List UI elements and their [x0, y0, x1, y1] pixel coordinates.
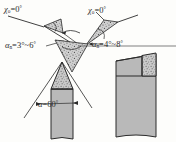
label-alpha-n-right-value: 4°~8 — [104, 39, 121, 49]
shank-tool-right — [116, 53, 156, 137]
label-alpha-n-left: αn=3°~6° — [5, 41, 36, 50]
label-alpha-n-left-unit: ° — [33, 41, 35, 47]
label-chi-right: χo=0° — [88, 6, 106, 15]
label-chi-left-unit: ° — [19, 5, 21, 11]
pointed-tool-shank — [51, 89, 73, 139]
leader-line-chi-right — [118, 15, 138, 22]
label-alpha-n-right: αn=4°~8° — [92, 40, 123, 49]
label-chi-right-unit: ° — [103, 6, 105, 12]
wedge-body-upper-left — [44, 19, 63, 33]
figure-canvas — [0, 0, 176, 142]
leader-line-chi-left — [8, 16, 44, 27]
label-alpha-60-value: 60 — [47, 99, 56, 109]
shank-tool-insert — [142, 53, 156, 76]
tool-geometry-figure: χo=0° χo=0° αn=3°~6° αn=4°~8° α=60° — [0, 0, 176, 142]
label-alpha-60: α=60° — [38, 100, 58, 109]
label-alpha-60-unit: ° — [56, 100, 58, 106]
label-alpha-n-right-unit: ° — [120, 40, 122, 46]
label-chi-left: χo=0° — [4, 5, 22, 14]
label-alpha-n-left-value: 3°~6 — [17, 40, 34, 50]
